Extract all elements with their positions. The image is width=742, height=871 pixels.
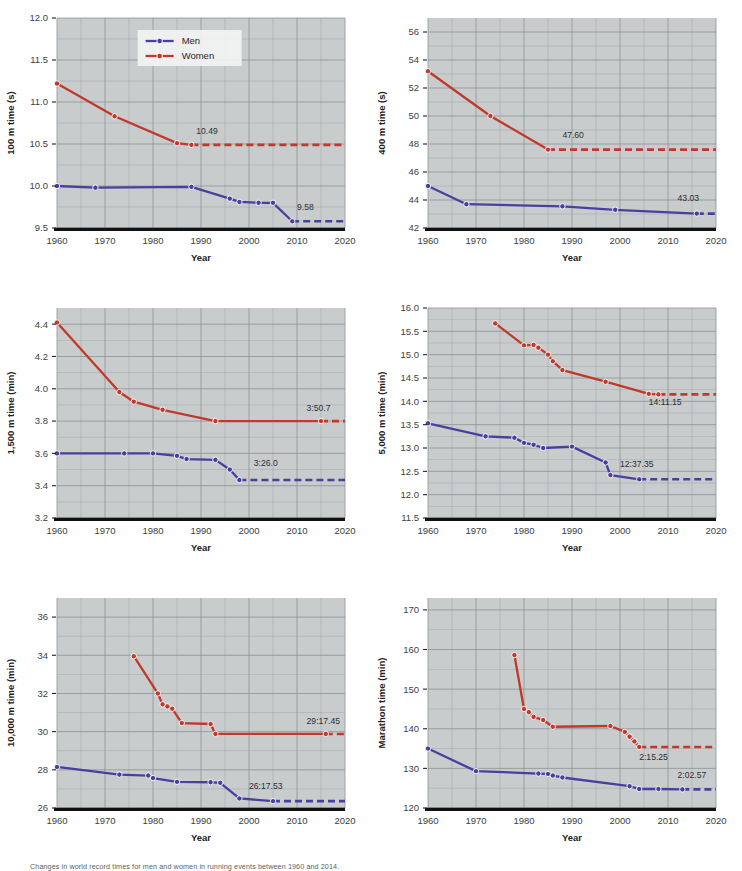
x-tick-label: 1990 xyxy=(561,525,582,536)
data-point xyxy=(93,185,98,190)
value-annotation: 9.58 xyxy=(297,202,314,212)
data-point xyxy=(622,729,627,734)
chart-panel-10-000-m: 2628303234361960197019801990200020102020… xyxy=(0,580,371,870)
data-point xyxy=(646,391,651,396)
y-tick-label: 150 xyxy=(403,684,419,695)
data-point xyxy=(531,442,536,447)
y-tick-label: 120 xyxy=(403,802,419,813)
value-annotation: 47.60 xyxy=(562,130,584,140)
data-point xyxy=(464,202,469,207)
value-annotation: 29:17.45 xyxy=(307,716,341,726)
data-point xyxy=(189,142,194,147)
value-annotation: 2:15.25 xyxy=(639,752,668,762)
data-point xyxy=(270,200,275,205)
data-point xyxy=(218,780,223,785)
x-tick-label: 2020 xyxy=(705,525,726,536)
data-point xyxy=(526,709,531,714)
y-tick-label: 32 xyxy=(37,688,48,699)
data-point xyxy=(550,724,555,729)
data-point xyxy=(541,717,546,722)
y-axis-title: Marathon time (min) xyxy=(376,658,387,749)
y-tick-label: 10.0 xyxy=(30,180,49,191)
x-tick-label: 1980 xyxy=(142,815,163,826)
data-point xyxy=(227,467,232,472)
figure-panel-grid: 9.510.010.511.011.512.019601970198019902… xyxy=(0,0,742,871)
value-annotation: 12:37.35 xyxy=(620,459,654,469)
data-point xyxy=(521,343,526,348)
data-point xyxy=(545,147,550,152)
y-axis-title: 10,000 m time (min) xyxy=(5,659,16,747)
y-tick-label: 170 xyxy=(403,604,419,615)
y-tick-label: 12.5 xyxy=(401,466,420,477)
data-point xyxy=(323,731,328,736)
data-point xyxy=(150,451,155,456)
data-point xyxy=(117,389,122,394)
x-tick-label: 1960 xyxy=(46,815,67,826)
data-point xyxy=(473,768,478,773)
x-tick-label: 1980 xyxy=(513,815,534,826)
y-tick-label: 4.4 xyxy=(35,319,48,330)
x-tick-label: 1970 xyxy=(465,815,486,826)
data-point xyxy=(488,113,493,118)
data-point xyxy=(627,734,632,739)
x-tick-label: 1970 xyxy=(94,235,115,246)
y-tick-label: 52 xyxy=(408,82,419,93)
chart-panel-100-m: 9.510.010.511.011.512.019601970198019902… xyxy=(0,0,371,290)
data-point xyxy=(425,746,430,751)
data-point xyxy=(531,714,536,719)
y-tick-label: 11.5 xyxy=(30,54,48,65)
chart-panel-5-000-m: 11.512.012.513.013.514.014.515.015.516.0… xyxy=(371,290,742,580)
data-point xyxy=(208,721,213,726)
x-tick-label: 1990 xyxy=(190,815,211,826)
y-tick-label: 3.4 xyxy=(35,480,48,491)
y-tick-label: 10.5 xyxy=(30,138,49,149)
legend-label-men: Men xyxy=(182,35,200,46)
x-tick-label: 2010 xyxy=(286,815,307,826)
data-point xyxy=(425,69,430,74)
data-point xyxy=(560,775,565,780)
value-annotation: 3:26.0 xyxy=(254,458,278,468)
x-tick-label: 1980 xyxy=(142,235,163,246)
y-tick-label: 28 xyxy=(37,764,48,775)
data-point xyxy=(569,444,574,449)
x-tick-label: 1970 xyxy=(465,235,486,246)
data-point xyxy=(536,345,541,350)
data-point xyxy=(541,445,546,450)
data-point xyxy=(637,744,642,749)
y-tick-label: 48 xyxy=(408,138,419,149)
x-axis-title: Year xyxy=(562,542,582,553)
y-tick-label: 42 xyxy=(408,222,419,233)
x-tick-label: 2010 xyxy=(286,525,307,536)
x-axis-title: Year xyxy=(562,252,582,263)
x-tick-label: 2020 xyxy=(705,235,726,246)
y-tick-label: 30 xyxy=(37,726,48,737)
x-axis-title: Year xyxy=(562,832,582,843)
data-point xyxy=(608,723,613,728)
data-point xyxy=(521,440,526,445)
x-tick-label: 2010 xyxy=(286,235,307,246)
chart-panel-marathon: 1201301401501601701960197019801990200020… xyxy=(371,580,742,870)
x-tick-label: 1980 xyxy=(513,525,534,536)
data-point xyxy=(290,219,295,224)
data-point xyxy=(613,207,618,212)
data-point xyxy=(632,739,637,744)
x-tick-label: 1960 xyxy=(46,525,67,536)
x-tick-label: 2000 xyxy=(609,235,630,246)
x-tick-label: 1980 xyxy=(142,525,163,536)
data-point xyxy=(560,204,565,209)
y-tick-label: 140 xyxy=(403,723,419,734)
data-point xyxy=(150,775,155,780)
value-annotation: 2:02.57 xyxy=(678,770,707,780)
data-point xyxy=(512,435,517,440)
chart-panel-1-500-m: 3.23.43.63.84.04.24.41960197019801990200… xyxy=(0,290,371,580)
data-point xyxy=(256,200,261,205)
data-point xyxy=(160,407,165,412)
data-point xyxy=(208,780,213,785)
value-annotation: 10.49 xyxy=(196,126,218,136)
y-tick-label: 3.2 xyxy=(35,512,48,523)
x-tick-label: 1960 xyxy=(46,235,67,246)
x-tick-label: 2000 xyxy=(238,235,259,246)
y-tick-label: 12.0 xyxy=(30,12,49,23)
x-tick-label: 1990 xyxy=(561,815,582,826)
x-tick-label: 2020 xyxy=(334,235,355,246)
